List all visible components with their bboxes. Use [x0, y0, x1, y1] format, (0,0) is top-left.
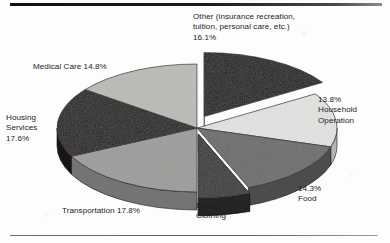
slice-label-medical-care: Medical Care 14.8%: [33, 62, 153, 72]
slice-label-clothing: 6.0% Clothing: [196, 201, 266, 222]
slice-label-food: 14.3% Food: [298, 184, 368, 205]
slice-label-other: Other (insurance recreation, tuition, pe…: [193, 12, 343, 43]
slice-label-housing-services: Housing Services 17.6%: [6, 113, 66, 144]
slice-label-household-operation: 13.8% Household Operation: [318, 95, 390, 126]
pie-chart-figure: Other (insurance recreation, tuition, pe…: [0, 0, 390, 243]
slice-label-transportation: Transportation 17.8%: [62, 206, 192, 216]
